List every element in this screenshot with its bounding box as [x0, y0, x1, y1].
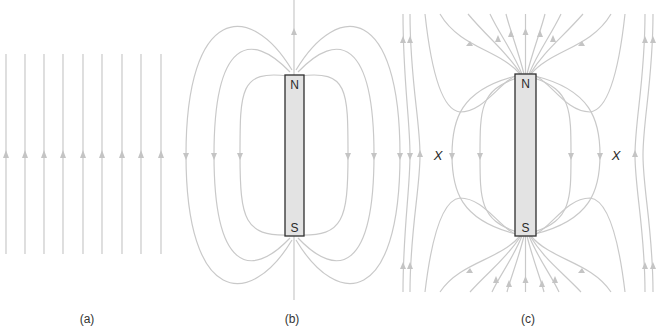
north-pole-label: N	[290, 78, 299, 92]
neutral-point-right: X	[611, 148, 622, 163]
panel-b-bar-magnet: N S (b)	[183, 0, 403, 326]
panel-label-c: (c)	[521, 312, 535, 326]
north-pole-label: N	[521, 77, 530, 91]
magnetic-field-figure: (a) N S (b)	[0, 0, 661, 330]
bar-magnet: N S	[285, 75, 304, 236]
neutral-point-left: X	[433, 148, 444, 163]
panel-c-combined-field: N S X X (c)	[400, 14, 656, 326]
bar-magnet: N S	[515, 74, 536, 236]
panel-a-uniform-field: (a)	[3, 54, 164, 326]
panel-label-b: (b)	[285, 312, 300, 326]
south-pole-label: S	[521, 221, 529, 235]
south-pole-label: S	[290, 221, 298, 235]
panel-label-a: (a)	[80, 312, 95, 326]
